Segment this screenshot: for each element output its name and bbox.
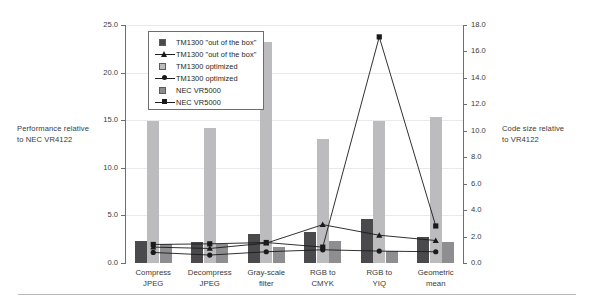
- y-axis-right-tick-label: 14.0: [471, 73, 505, 82]
- y-axis-left-tick-label: 5.0: [84, 210, 118, 219]
- legend-swatch: [154, 61, 176, 72]
- y-axis-right-tick-label: 18.0: [471, 20, 505, 29]
- legend-item-label: TM1300 optimized: [176, 74, 238, 83]
- legend-item: TM1300 optimized: [154, 72, 258, 84]
- legend-item: TM1300 "out of the box": [154, 36, 258, 48]
- y-axis-right-tick-label: 10.0: [471, 126, 505, 135]
- circle-marker: [151, 250, 156, 255]
- square-marker: [207, 241, 212, 246]
- y-axis-right-tick: [463, 237, 467, 238]
- y-axis-right-tick-label: 6.0: [471, 179, 505, 188]
- square-marker: [151, 242, 156, 247]
- legend-item-label: TM1300 "out of the box": [176, 50, 256, 59]
- legend-item-label: TM1300 "out of the box": [176, 38, 256, 47]
- left-axis-title-line2: to NEC VR4122: [17, 135, 113, 146]
- y-axis-left-tick-label: 0.0: [84, 258, 118, 267]
- left-axis-title-line1: Performance relative: [17, 124, 113, 135]
- y-axis-left-line: [125, 25, 126, 264]
- right-axis-title: Code size relative to VR4122: [502, 124, 594, 145]
- y-axis-right-line: [463, 25, 464, 264]
- circle-marker: [264, 249, 269, 254]
- legend-swatch: [154, 85, 176, 96]
- triangle-marker-icon: [161, 51, 167, 57]
- y-axis-right-tick: [463, 25, 467, 26]
- y-axis-left-tick-label: 20.0: [84, 68, 118, 77]
- y-axis-right-tick: [463, 131, 467, 132]
- y-axis-left-tick: [121, 263, 125, 264]
- y-axis-right-tick-label: 12.0: [471, 99, 505, 108]
- y-axis-right-tick: [463, 51, 467, 52]
- chart-legend: TM1300 "out of the box"TM1300 "out of th…: [148, 31, 264, 110]
- circle-marker-icon: [162, 75, 167, 80]
- y-axis-right-tick: [463, 157, 467, 158]
- y-axis-left-tick-label: 10.0: [84, 163, 118, 172]
- square-marker: [264, 240, 269, 245]
- y-axis-right-tick-label: 8.0: [471, 152, 505, 161]
- y-axis-right-tick: [463, 184, 467, 185]
- y-axis-right-tick-label: 0.0: [471, 258, 505, 267]
- legend-swatch-icon: [159, 87, 166, 94]
- category-label-line: mean: [401, 279, 471, 290]
- legend-item: TM1300 optimized: [154, 60, 258, 72]
- y-axis-right-tick: [463, 104, 467, 105]
- y-axis-left-tick-label: 25.0: [84, 20, 118, 29]
- right-axis-title-line1: Code size relative: [502, 124, 594, 135]
- y-axis-right-tick-label: 16.0: [471, 46, 505, 55]
- legend-line-marker: [154, 73, 176, 84]
- y-axis-right-tick-label: 2.0: [471, 232, 505, 241]
- right-axis-title-line2: to VR4122: [502, 135, 594, 146]
- y-axis-right-tick: [463, 263, 467, 264]
- legend-item: NEC VR5000: [154, 96, 258, 108]
- y-axis-left-tick: [121, 168, 125, 169]
- left-axis-title: Performance relative to NEC VR4122: [17, 124, 113, 145]
- category-label-line: Geometric: [401, 268, 471, 279]
- square-marker: [320, 245, 325, 250]
- circle-marker: [207, 252, 212, 257]
- y-axis-left-tick: [121, 25, 125, 26]
- y-axis-left-tick: [121, 120, 125, 121]
- legend-swatch-icon: [159, 63, 166, 70]
- legend-item: NEC VR5000: [154, 84, 258, 96]
- legend-swatch-icon: [159, 39, 166, 46]
- y-axis-left-tick: [121, 73, 125, 74]
- square-marker: [377, 34, 382, 39]
- y-axis-right-tick: [463, 210, 467, 211]
- legend-line-marker: [154, 49, 176, 60]
- footer-rule: [18, 294, 576, 295]
- y-axis-right-tick-label: 4.0: [471, 205, 505, 214]
- y-axis-right-tick: [463, 78, 467, 79]
- square-marker: [433, 223, 438, 228]
- line-series-path: [153, 250, 436, 255]
- circle-marker: [433, 249, 438, 254]
- chart-figure: Performance relative to NEC VR4122 Code …: [0, 0, 594, 306]
- triangle-marker: [320, 222, 326, 228]
- legend-item: TM1300 "out of the box": [154, 48, 258, 60]
- legend-item-label: NEC VR5000: [176, 86, 221, 95]
- legend-item-label: NEC VR5000: [176, 98, 221, 107]
- legend-line-marker: [154, 97, 176, 108]
- x-axis-category-label: Geometricmean: [401, 268, 471, 289]
- y-axis-left-tick-label: 15.0: [84, 115, 118, 124]
- circle-marker: [377, 249, 382, 254]
- square-marker-icon: [162, 99, 167, 104]
- y-axis-left-tick: [121, 215, 125, 216]
- legend-swatch: [154, 37, 176, 48]
- legend-item-label: TM1300 optimized: [176, 62, 238, 71]
